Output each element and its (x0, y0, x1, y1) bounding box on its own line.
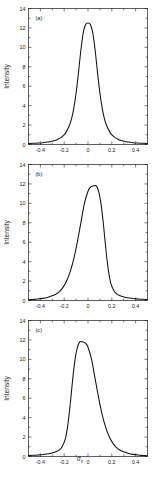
plot-frame (29, 165, 148, 301)
x-axis-title-subscript: x (81, 459, 83, 464)
y-tick-label: 14 (20, 6, 26, 12)
panel-b: -0.4-0.200.20.402468101214Intensity(b) (0, 156, 160, 312)
y-tick-label: 4 (23, 103, 26, 109)
x-tick-label: 0 (87, 147, 90, 153)
figure-container: -0.4-0.200.20.402468101214Intensity(a) -… (0, 0, 160, 477)
y-tick-label: 10 (20, 44, 26, 50)
x-tick-label: 0 (87, 303, 90, 309)
x-tick-label: -0.4 (36, 147, 45, 153)
y-tick-label: 12 (20, 337, 26, 343)
y-tick-label: 12 (20, 181, 26, 187)
y-tick-label: 8 (23, 64, 26, 70)
x-tick-label: 0.4 (132, 303, 140, 309)
y-tick-label: 0 (23, 142, 26, 148)
panel-label: (c) (36, 327, 43, 333)
y-axis-title: Intensity (3, 376, 11, 401)
x-axis-title: σx (0, 447, 160, 465)
y-tick-label: 6 (23, 239, 26, 245)
y-tick-label: 14 (20, 318, 26, 324)
panel-a: -0.4-0.200.20.402468101214Intensity(a) (0, 0, 160, 156)
y-tick-label: 2 (23, 434, 26, 440)
y-axis-title: Intensity (3, 220, 11, 245)
y-tick-label: 6 (23, 395, 26, 401)
y-tick-label: 8 (23, 220, 26, 226)
y-tick-label: 10 (20, 356, 26, 362)
x-tick-label: 0.2 (108, 147, 116, 153)
x-tick-label: -0.2 (60, 147, 69, 153)
y-tick-label: 2 (23, 278, 26, 284)
y-tick-label: 8 (23, 376, 26, 382)
y-tick-label: 12 (20, 25, 26, 31)
y-axis-title: Intensity (3, 64, 11, 89)
x-tick-label: -0.4 (36, 303, 45, 309)
plot-frame (29, 9, 148, 145)
x-tick-label: 0.2 (108, 303, 116, 309)
panel-c: -0.4-0.200.20.402468101214Intensity(c) (0, 312, 160, 468)
y-tick-label: 14 (20, 162, 26, 168)
x-tick-label: -0.2 (60, 303, 69, 309)
y-tick-label: 6 (23, 83, 26, 89)
panel-label: (a) (36, 15, 43, 21)
data-curve (29, 23, 148, 143)
plot-frame (29, 321, 148, 457)
x-tick-label: 0.4 (132, 147, 140, 153)
data-curve (29, 341, 148, 455)
panel-label: (b) (36, 171, 43, 177)
y-tick-label: 0 (23, 298, 26, 304)
y-tick-label: 4 (23, 415, 26, 421)
y-tick-label: 4 (23, 259, 26, 265)
y-tick-label: 2 (23, 122, 26, 128)
data-curve (29, 185, 148, 299)
y-tick-label: 10 (20, 200, 26, 206)
